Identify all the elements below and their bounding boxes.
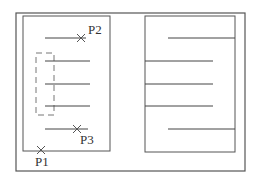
- point-label: P3: [80, 132, 94, 147]
- point-markers: P2P3P1: [35, 22, 102, 169]
- outer-frame: [16, 13, 245, 171]
- right-panel-lines: [145, 38, 235, 129]
- point-p2: P2: [77, 22, 102, 42]
- point-p1: P1: [35, 146, 49, 169]
- diagram-canvas: P2P3P1: [0, 0, 257, 183]
- point-label: P1: [35, 154, 49, 169]
- point-label: P2: [88, 22, 102, 37]
- point-p3: P3: [73, 125, 94, 147]
